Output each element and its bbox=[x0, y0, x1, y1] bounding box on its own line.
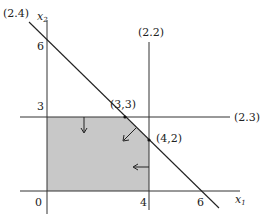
y-tick-3: 3 bbox=[37, 100, 44, 113]
y-tick-6: 6 bbox=[37, 40, 44, 53]
x2-axis-label: x2 bbox=[37, 10, 48, 24]
x-tick-4: 4 bbox=[140, 196, 147, 209]
lp-diagram: (2.4) x2 (2.2) 6 3 (3,3) (2.3) (4,2) 0 4… bbox=[0, 0, 264, 217]
x-tick-6: 6 bbox=[197, 196, 204, 209]
feasible-region bbox=[47, 117, 149, 191]
vertex-4-2 bbox=[147, 138, 150, 141]
constraint-label-2-4: (2.4) bbox=[3, 7, 29, 20]
vertex-3-3 bbox=[123, 115, 126, 118]
constraint-label-2-3: (2.3) bbox=[234, 111, 260, 124]
x1-axis-label: x1 bbox=[235, 193, 246, 207]
vertex-label-3-3: (3,3) bbox=[110, 98, 136, 111]
constraint-label-2-2: (2.2) bbox=[138, 26, 164, 39]
origin-label: 0 bbox=[35, 196, 42, 209]
vertex-label-4-2: (4,2) bbox=[156, 132, 182, 145]
